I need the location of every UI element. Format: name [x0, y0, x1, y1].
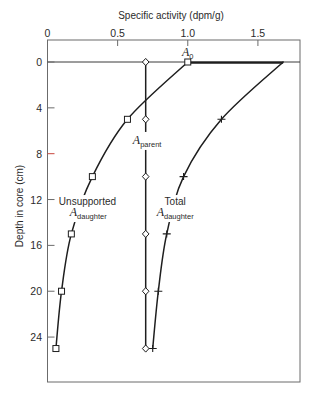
y-tick-label: 24 — [30, 331, 42, 343]
y-tick-label: 4 — [36, 102, 42, 114]
cross-marker-icon — [163, 230, 171, 237]
x-tick-label: 1.0 — [180, 27, 195, 39]
diamond-marker-icon — [142, 58, 149, 65]
diamond-marker-icon — [142, 345, 149, 352]
y-tick-label: 8 — [36, 148, 42, 160]
diamond-marker-icon — [142, 230, 149, 237]
x-tick-label: 0.5 — [110, 27, 125, 39]
symbol-subscript: parent — [140, 140, 162, 149]
x-tick-label: 0 — [45, 27, 51, 39]
x-tick-label: 1.5 — [251, 27, 266, 39]
diamond-marker-icon — [142, 116, 149, 123]
cross-marker-icon — [154, 288, 162, 295]
symbol-subscript: daughter — [77, 212, 107, 221]
cross-marker-icon — [149, 345, 157, 352]
cross-marker-icon — [180, 173, 188, 180]
y-tick-label: 12 — [30, 194, 42, 206]
square-marker-icon — [68, 231, 74, 237]
symbol-subscript: 0 — [189, 52, 193, 61]
square-marker-icon — [59, 288, 65, 294]
axis-ticks: 00.51.01.504812162024 — [30, 27, 265, 343]
y-tick-label: 20 — [30, 285, 42, 297]
symbol-subscript: daughter — [164, 212, 194, 221]
total-label: Total — [165, 196, 186, 207]
square-marker-icon — [53, 346, 59, 352]
diamond-marker-icon — [142, 173, 149, 180]
y-axis-label: Depth in core (cm) — [14, 165, 25, 247]
unsupported-label: Unsupported — [59, 196, 116, 207]
square-marker-icon — [124, 116, 130, 122]
curve-labels: A0AparentUnsupportedAdaughterTotalAdaugh… — [57, 45, 196, 222]
square-marker-icon — [89, 174, 95, 180]
a0-label: A0 — [181, 45, 194, 61]
y-tick-label: 0 — [36, 56, 42, 68]
diamond-marker-icon — [142, 288, 149, 295]
chart-title: Specific activity (dpm/g) — [118, 10, 224, 21]
y-tick-label: 16 — [30, 239, 42, 251]
depth-activity-chart: Specific activity (dpm/g) Depth in core … — [0, 0, 318, 395]
